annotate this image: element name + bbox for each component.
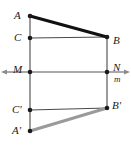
point-Aprime <box>28 129 33 134</box>
label-point-Cprime: C' <box>12 104 22 115</box>
label-line-m: m <box>114 75 121 84</box>
point-Cprime <box>28 108 33 113</box>
label-point-Bprime: B' <box>112 100 121 111</box>
label-point-M: M <box>13 64 22 75</box>
label-point-N: N <box>113 62 120 73</box>
point-A <box>28 14 33 19</box>
segment-Aprime-Bprime <box>30 108 107 131</box>
arrowhead-left-icon <box>1 69 7 74</box>
arrowhead-right-icon <box>124 69 130 74</box>
label-point-C: C <box>14 32 21 43</box>
point-M <box>28 70 33 75</box>
segment-AB <box>30 16 107 37</box>
segment-C-to-B <box>30 37 107 38</box>
label-point-Aprime: A' <box>12 125 21 136</box>
label-point-B: B <box>113 35 120 46</box>
point-C <box>28 36 33 41</box>
label-point-A: A <box>14 10 21 21</box>
point-Bprime <box>105 106 110 111</box>
point-N <box>105 70 110 75</box>
geometry-figure: A B C M N C' B' A' m <box>0 0 131 147</box>
point-B <box>105 35 110 40</box>
segment-Cprime-to-Bprime <box>30 108 107 110</box>
